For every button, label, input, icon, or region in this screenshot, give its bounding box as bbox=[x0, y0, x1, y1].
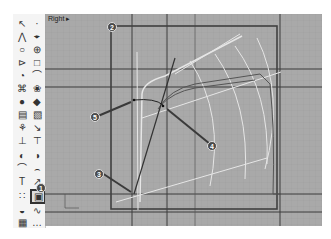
grid-icon[interactable]: ▦ bbox=[15, 217, 29, 229]
dimension-tools-icon[interactable]: ∿ bbox=[30, 205, 44, 217]
point-icon[interactable]: · bbox=[30, 18, 44, 30]
ellipse-icon[interactable]: ⊕ bbox=[30, 44, 44, 56]
solid-icon[interactable]: ● bbox=[15, 96, 29, 108]
boolean-tools-icon[interactable]: ◑ bbox=[30, 150, 44, 162]
right-viewport[interactable]: Right ▸ 2 5 4 3 bbox=[45, 14, 322, 226]
callout-5: 5 bbox=[90, 112, 100, 122]
curve-tools-icon[interactable]: ⌒ bbox=[30, 70, 44, 82]
render-icon[interactable]: ⚘ bbox=[15, 122, 29, 134]
solid-tools-icon[interactable]: ◆ bbox=[30, 96, 44, 108]
polyline-icon[interactable]: ⋀ bbox=[15, 31, 29, 43]
viewport-canvas bbox=[45, 14, 322, 226]
fillet-tools-icon[interactable]: ⌢ bbox=[30, 163, 44, 175]
viewport-title[interactable]: Right ▸ bbox=[48, 15, 70, 23]
control-point-curve-icon[interactable]: ⌖ bbox=[30, 31, 44, 43]
callout-4: 4 bbox=[207, 141, 217, 151]
array-icon[interactable]: ∷ bbox=[15, 190, 29, 202]
sphere-icon[interactable]: ◒ bbox=[15, 205, 29, 217]
circle-icon[interactable]: ○ bbox=[15, 44, 29, 56]
select-arrow-icon[interactable]: ↖ bbox=[15, 18, 29, 30]
dimension-icon[interactable]: ⊥ bbox=[15, 135, 29, 147]
mesh-icon[interactable]: ▤ bbox=[15, 109, 29, 121]
annotation-icon[interactable]: ⊤ bbox=[30, 135, 44, 147]
callout-1: 1 bbox=[36, 183, 46, 193]
surface-icon[interactable]: ⌘ bbox=[15, 83, 29, 95]
viewport-title-text: Right bbox=[48, 15, 64, 22]
polygon-icon[interactable]: ◔ bbox=[15, 70, 29, 82]
more-icon[interactable]: … bbox=[30, 217, 44, 229]
fillet-icon[interactable]: ⌒ bbox=[15, 163, 29, 175]
render-tools-icon[interactable]: ↘ bbox=[30, 122, 44, 134]
mesh-tools-icon[interactable]: ▧ bbox=[30, 109, 44, 121]
callout-2: 2 bbox=[107, 22, 117, 32]
arc-icon[interactable]: ⊳ bbox=[15, 57, 29, 69]
surface-tools-icon[interactable]: ❀ bbox=[30, 83, 44, 95]
boolean-icon[interactable]: ◐ bbox=[15, 150, 29, 162]
callout-3: 3 bbox=[94, 169, 104, 179]
rectangle-icon[interactable]: □ bbox=[30, 57, 44, 69]
viewport-menu-arrow-icon[interactable]: ▸ bbox=[66, 15, 70, 22]
tool-palette: ↖ · ⋀ ⌖ ○ ⊕ ⊳ □ ◔ ⌒ ⌘ ❀ ● ◆ ▤ ▧ ⚘ ↘ ⊥ ⊤ … bbox=[13, 14, 46, 228]
text-icon[interactable]: T bbox=[15, 176, 29, 188]
